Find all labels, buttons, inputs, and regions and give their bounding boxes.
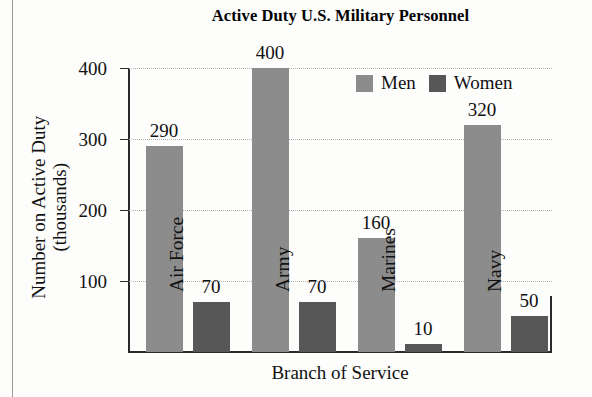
x-axis-title: Branch of Service [128,362,552,384]
bar-value-marines-women: 10 [414,318,433,340]
chart-title: Active Duty U.S. Military Personnel [128,6,553,26]
plot-area: 400 300 200 100 290 70 Air Force 400 70 … [128,68,552,352]
y-tick-label-400: 400 [79,58,108,80]
bar-army-men [252,68,289,352]
y-tick-300: 300 [120,139,129,140]
legend-item-women: Women [429,72,513,94]
chart-figure: Active Duty U.S. Military Personnel 400 … [0,0,592,397]
bar-value-navy-men: 320 [468,99,497,121]
y-tick-200: 200 [120,210,129,211]
category-label-air-force: Air Force [166,217,188,292]
bar-value-army-women: 70 [308,276,327,298]
legend-item-men: Men [356,72,416,94]
bar-navy-women [511,316,548,352]
page-edge-line [12,0,13,397]
gridline-400 [128,68,552,69]
legend-label-women: Women [454,72,513,94]
y-tick-100: 100 [120,281,129,282]
bar-marines-women [405,344,442,352]
y-axis-title-line2: (thousands) [50,115,71,298]
y-tick-400: 400 [120,68,129,69]
legend-label-men: Men [381,72,416,94]
bar-value-army-men: 400 [256,42,285,64]
category-label-army: Army [272,247,294,293]
bar-value-air-force-women: 70 [202,276,221,298]
category-label-marines: Marines [378,228,400,292]
category-label-navy: Navy [484,250,506,292]
y-axis-title: Number on Active Duty (thousands) [24,62,76,352]
y-axis-title-line1: Number on Active Duty [29,115,50,298]
bar-navy-men [464,125,501,352]
chart-legend: Men Women [356,72,512,94]
bar-army-women [299,302,336,352]
legend-swatch-women-icon [429,75,446,92]
bar-value-air-force-men: 290 [150,120,179,142]
plot-right-edge [550,296,552,352]
y-tick-label-200: 200 [79,200,108,222]
y-tick-label-100: 100 [79,271,108,293]
bar-value-navy-women: 50 [520,290,539,312]
y-tick-label-300: 300 [79,129,108,151]
legend-swatch-men-icon [356,75,373,92]
bar-air-force-women [193,302,230,352]
